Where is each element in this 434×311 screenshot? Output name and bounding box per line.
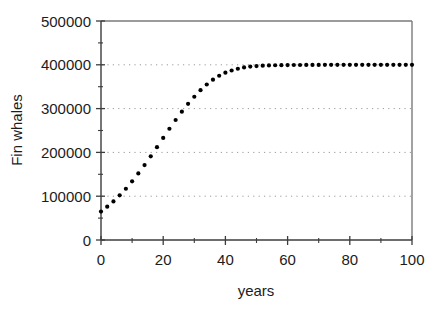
y-tick-label-100000: 100000 [41, 188, 91, 205]
data-point [360, 63, 364, 67]
data-point [230, 68, 234, 72]
data-point [397, 63, 401, 67]
data-point [385, 63, 389, 67]
data-point [335, 63, 339, 67]
x-tick-label-40: 40 [217, 251, 234, 268]
data-point [136, 171, 140, 175]
data-point [217, 74, 221, 78]
data-point [366, 63, 370, 67]
data-point [286, 63, 290, 67]
data-point [292, 63, 296, 67]
data-point [186, 102, 190, 106]
data-point [391, 63, 395, 67]
data-point [348, 63, 352, 67]
y-tick-label-0: 0 [83, 232, 91, 249]
data-point [174, 118, 178, 122]
x-axis-title: years [238, 282, 275, 299]
data-point [248, 64, 252, 68]
y-tick-label-300000: 300000 [41, 100, 91, 117]
data-point [279, 63, 283, 67]
chart-canvas: 0100000200000300000400000500000 02040608… [0, 0, 434, 311]
y-tick-label-500000: 500000 [41, 13, 91, 30]
data-point [167, 127, 171, 131]
y-tick-label-200000: 200000 [41, 144, 91, 161]
data-point [124, 187, 128, 191]
data-point [354, 63, 358, 67]
data-point [180, 110, 184, 114]
data-point [149, 154, 153, 158]
data-point [310, 63, 314, 67]
data-point [105, 205, 109, 209]
data-point [298, 63, 302, 67]
data-point [223, 71, 227, 75]
data-point [323, 63, 327, 67]
data-point [267, 63, 271, 67]
x-tick-label-20: 20 [155, 251, 172, 268]
x-tick-label-60: 60 [279, 251, 296, 268]
data-point [198, 88, 202, 92]
data-point [317, 63, 321, 67]
x-tick-label-0: 0 [97, 251, 105, 268]
data-point [261, 64, 265, 68]
data-point [404, 63, 408, 67]
data-point [373, 63, 377, 67]
data-point [192, 95, 196, 99]
data-point [410, 63, 414, 67]
data-point [341, 63, 345, 67]
data-point [236, 67, 240, 71]
data-point [130, 179, 134, 183]
data-point [99, 209, 103, 213]
data-point [273, 63, 277, 67]
fin-whales-chart: 0100000200000300000400000500000 02040608… [0, 0, 434, 311]
plot-frame [101, 21, 412, 240]
y-tick-label-400000: 400000 [41, 56, 91, 73]
x-tick-label-80: 80 [341, 251, 358, 268]
data-point [142, 163, 146, 167]
data-point [329, 63, 333, 67]
data-point [304, 63, 308, 67]
data-point [111, 199, 115, 203]
data-point [161, 136, 165, 140]
data-point [155, 145, 159, 149]
data-series-fin-whales [99, 63, 414, 214]
data-point [254, 64, 258, 68]
data-point [242, 65, 246, 69]
x-tick-label-100: 100 [399, 251, 424, 268]
data-point [118, 193, 122, 197]
data-point [211, 78, 215, 82]
data-point [205, 82, 209, 86]
y-axis-tick-labels: 0100000200000300000400000500000 [41, 13, 91, 249]
data-point [379, 63, 383, 67]
y-axis-title: Fin whales [8, 94, 25, 166]
gridlines [102, 65, 411, 196]
x-axis-tick-labels: 020406080100 [97, 251, 425, 268]
